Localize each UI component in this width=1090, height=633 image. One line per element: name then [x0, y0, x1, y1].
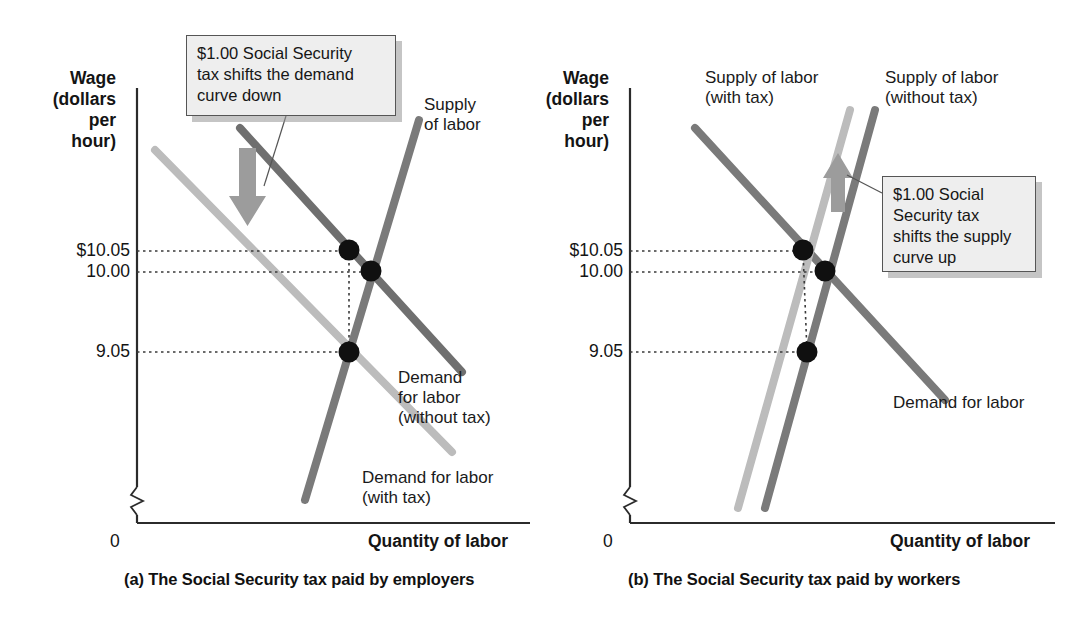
origin-label: 0 [110, 531, 120, 552]
point-wage-905 [797, 342, 818, 363]
point-wage-905 [339, 342, 360, 363]
curve-label-supply-without-tax: Supply of labor (without tax) [885, 68, 998, 108]
panel-a-caption: (a) The Social Security tax paid by empl… [124, 570, 474, 589]
y-tick-label-905: 9.05 [38, 341, 130, 362]
figure-root: Wage (dollars per hour) $10.05 10.00 9.0… [0, 0, 1090, 633]
y-axis-break-icon [131, 487, 143, 515]
x-axis-title: Quantity of labor [368, 531, 508, 552]
point-wage-1000 [361, 261, 382, 282]
curve-label-supply-of-labor: Supply of labor [424, 95, 481, 135]
point-wage-1005 [339, 240, 360, 261]
curve-label-demand-without-tax: Demand for labor (without tax) [398, 368, 491, 428]
y-tick-label-1000: 10.00 [38, 261, 130, 282]
curve-label-demand-with-tax: Demand for labor (with tax) [362, 468, 493, 508]
callout-demand-shift: $1.00 Social Security tax shifts the dem… [186, 35, 396, 116]
panel-b-caption: (b) The Social Security tax paid by work… [628, 570, 960, 589]
panel-a: Wage (dollars per hour) $10.05 10.00 9.0… [0, 0, 545, 633]
curve-label-supply-with-tax: Supply of labor (with tax) [705, 68, 818, 108]
y-tick-label-905: 9.05 [531, 341, 623, 362]
curve-label-demand-for-labor: Demand for labor [893, 393, 1024, 413]
callout-supply-shift: $1.00 Social Security tax shifts the sup… [882, 176, 1036, 272]
y-axis-break-icon [624, 487, 636, 515]
y-axis-title: Wage (dollars per hour) [28, 68, 116, 152]
x-axis-title: Quantity of labor [890, 531, 1030, 552]
y-tick-label-1005: $10.05 [38, 240, 130, 261]
point-wage-1005 [793, 240, 814, 261]
y-tick-label-1005: $10.05 [531, 240, 623, 261]
y-axis-title: Wage (dollars per hour) [521, 68, 609, 152]
origin-label: 0 [603, 531, 613, 552]
point-wage-1000 [815, 261, 836, 282]
panel-b: Wage (dollars per hour) $10.05 10.00 9.0… [545, 0, 1090, 633]
down-shift-arrow-icon [229, 148, 266, 226]
y-tick-label-1000: 10.00 [531, 261, 623, 282]
